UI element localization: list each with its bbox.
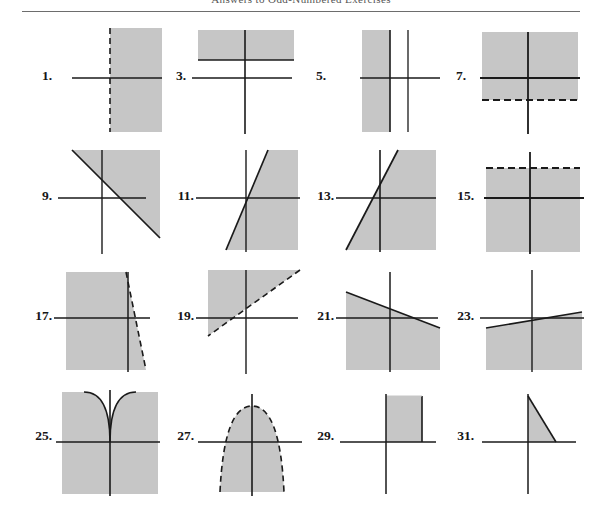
figure-number-7: 7. [440,68,466,84]
figure-graphic-15 [476,142,590,260]
figure-number-3: 3. [160,68,186,84]
figure-panel-5: 5. [300,22,444,140]
figure-graphic-25 [54,382,166,502]
figure-panel-11: 11. [160,142,304,260]
figure-graphic-23 [476,262,590,380]
figure-number-13: 13. [300,188,334,204]
figure-graphic-17 [54,262,164,380]
figure-graphic-19 [196,262,308,380]
figure-graphic-3 [188,22,302,140]
figure-panel-29: 29. [300,382,444,502]
figure-number-17: 17. [18,308,52,324]
figure-graphic-29 [336,382,448,502]
figure-number-19: 19. [160,308,194,324]
figure-panel-31: 31. [440,382,590,502]
header-divider-rule [22,11,580,12]
figure-graphic-21 [336,262,448,380]
figure-graphic-31 [476,382,590,502]
figure-panel-25: 25. [18,382,162,502]
figure-number-27: 27. [160,428,194,444]
figure-number-31: 31. [440,428,474,444]
figure-panel-17: 17. [18,262,162,380]
figure-number-15: 15. [440,188,474,204]
figure-number-5: 5. [300,68,326,84]
figure-number-23: 23. [440,308,474,324]
figure-panel-7: 7. [440,22,590,140]
figure-graphic-27 [196,382,308,502]
figure-panel-1: 1. [18,22,162,140]
figure-number-29: 29. [300,428,334,444]
figure-panel-13: 13. [300,142,444,260]
answer-key-page: Answers to Odd-Numbered Exercises 1. 3. … [0,0,602,508]
figure-graphic-7 [468,22,588,140]
page-header-title: Answers to Odd-Numbered Exercises [0,0,602,3]
figure-panel-21: 21. [300,262,444,380]
figure-number-9: 9. [18,188,52,204]
figure-number-21: 21. [300,308,334,324]
figure-panel-27: 27. [160,382,304,502]
figure-number-11: 11. [160,188,194,204]
figure-panel-19: 19. [160,262,304,380]
figure-panel-3: 3. [160,22,304,140]
figure-graphic-1 [54,22,164,140]
figure-panel-23: 23. [440,262,590,380]
figure-graphic-13 [336,142,446,260]
figure-number-1: 1. [18,68,52,84]
figure-panel-15: 15. [440,142,590,260]
figure-graphic-11 [196,142,306,260]
figure-graphic-5 [328,22,442,140]
figure-graphic-9 [54,142,166,260]
figure-number-25: 25. [18,428,52,444]
figure-panel-9: 9. [18,142,162,260]
